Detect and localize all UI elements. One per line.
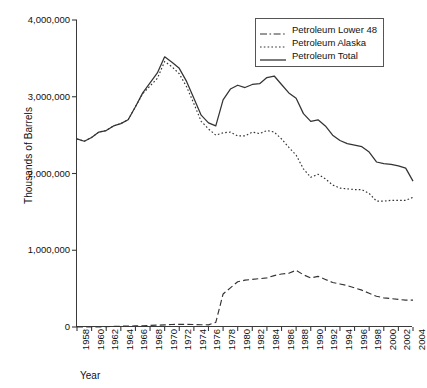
x-tick-label: 1968: [153, 329, 164, 350]
x-tick-label: 1962: [109, 329, 120, 350]
x-tick-label: 1960: [95, 329, 106, 350]
x-tick-label: 1990: [314, 329, 325, 350]
x-tick-label: 1980: [241, 329, 252, 350]
legend-label: Petroleum Lower 48: [292, 25, 377, 35]
x-tick-label: 2000: [387, 329, 398, 350]
y-tick-label: 2,000,000: [8, 169, 70, 179]
x-tick-label: 1996: [358, 329, 369, 350]
legend-label: Petroleum Total: [292, 51, 358, 61]
series-line: [77, 270, 413, 327]
legend-item: Petroleum Total: [260, 49, 377, 62]
x-axis-title: Year: [76, 370, 412, 381]
chart-legend: Petroleum Lower 48Petroleum AlaskaPetrol…: [255, 18, 384, 67]
x-tick-label: 1986: [285, 329, 296, 350]
y-tick-label: 1,000,000: [8, 245, 70, 255]
legend-label: Petroleum Alaska: [292, 38, 366, 48]
x-tick-label: 1974: [197, 329, 208, 350]
y-tick-label: 4,000,000: [8, 15, 70, 25]
series-line: [77, 61, 413, 201]
x-tick-label: 1976: [211, 329, 222, 350]
legend-line-swatch: [260, 38, 286, 48]
x-tick-label: 1994: [343, 329, 354, 350]
legend-item: Petroleum Alaska: [260, 36, 377, 49]
y-tick-label: 3,000,000: [8, 92, 70, 102]
y-tick-label: 0: [8, 322, 70, 332]
legend-line-swatch: [260, 25, 286, 35]
x-tick-label: 1970: [168, 329, 179, 350]
x-tick-label: 1982: [255, 329, 266, 350]
x-tick-label: 1992: [328, 329, 339, 350]
x-tick-label: 1998: [372, 329, 383, 350]
series-line: [77, 57, 413, 181]
x-tick-label: 1964: [124, 329, 135, 350]
x-tick-label: 2002: [401, 329, 412, 350]
x-tick-label: 1984: [270, 329, 281, 350]
x-tick-label: 1958: [80, 329, 91, 350]
x-tick-label: 2004: [416, 329, 427, 350]
x-tick-label: 1978: [226, 329, 237, 350]
legend-item: Petroleum Lower 48: [260, 23, 377, 36]
x-tick-label: 1988: [299, 329, 310, 350]
y-axis-tick-labels: 01,000,0002,000,0003,000,0004,000,000: [8, 0, 70, 388]
x-tick-label: 1966: [138, 329, 149, 350]
x-tick-label: 1972: [182, 329, 193, 350]
legend-line-swatch: [260, 51, 286, 61]
x-axis-title-text: Year: [80, 370, 100, 381]
